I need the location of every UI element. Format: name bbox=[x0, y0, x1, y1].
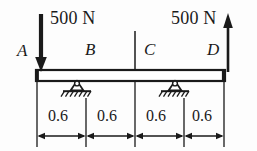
point-label-b: B bbox=[85, 41, 95, 58]
support-c-pin bbox=[159, 81, 189, 97]
point-label-d: D bbox=[207, 41, 219, 58]
dimension-label-mid-c: 0.6 bbox=[146, 108, 166, 124]
beam-diagram-graphics bbox=[0, 0, 257, 151]
force-label-a: 500 N bbox=[50, 9, 96, 27]
beam-body bbox=[36, 70, 225, 81]
force-arrow-d-up bbox=[223, 13, 233, 72]
force-label-d: 500 N bbox=[171, 9, 217, 27]
point-label-a: A bbox=[17, 42, 27, 59]
dimension-label-ab: 0.6 bbox=[48, 108, 68, 124]
dimension-arrows bbox=[37, 133, 223, 139]
dimension-label-cd: 0.6 bbox=[192, 108, 212, 124]
force-arrow-a-down bbox=[35, 14, 47, 72]
point-label-c: C bbox=[144, 41, 155, 58]
dimension-label-b-mid: 0.6 bbox=[97, 108, 117, 124]
support-b-pin bbox=[61, 81, 91, 97]
beam-diagram: 500 N 500 N A B C D 0.6 0.6 0.6 0.6 bbox=[0, 0, 257, 151]
